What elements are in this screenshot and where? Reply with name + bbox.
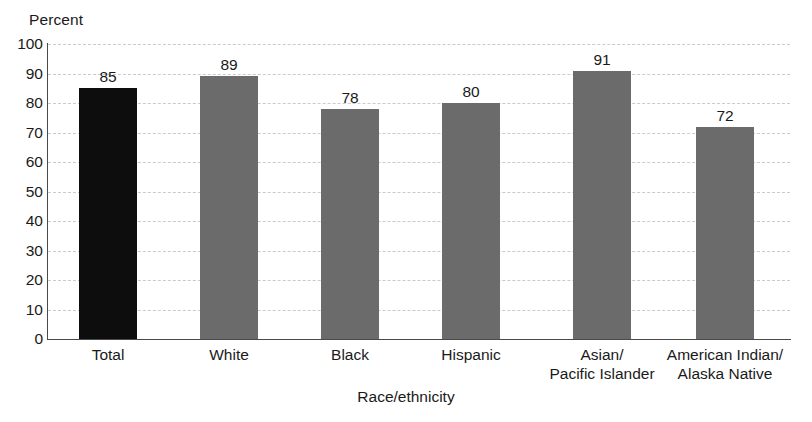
x-axis-category-label: Hispanic: [400, 345, 542, 364]
bar-group[interactable]: 89White: [200, 76, 258, 339]
bar[interactable]: [573, 71, 631, 339]
bar-value-label: 80: [420, 83, 522, 100]
x-axis-title: Race/ethnicity: [0, 388, 812, 406]
bar-group[interactable]: 80Hispanic: [442, 103, 500, 339]
bar-group[interactable]: 85Total: [79, 88, 137, 339]
bar[interactable]: [696, 127, 754, 339]
bar-value-label: 72: [674, 107, 776, 124]
bar-chart: Percent 1009080706050403020100 85Total89…: [0, 0, 812, 422]
bar-value-label: 85: [57, 68, 159, 85]
bar-value-label: 89: [178, 56, 280, 73]
x-axis-category-label: Asian/ Pacific Islander: [531, 345, 673, 383]
x-axis-category-label: American Indian/ Alaska Native: [654, 345, 796, 383]
bar[interactable]: [442, 103, 500, 339]
bar-value-label: 91: [551, 51, 653, 68]
bars-layer: 85Total89White78Black80Hispanic91Asian/ …: [0, 0, 812, 422]
bar[interactable]: [79, 88, 137, 339]
bar-group[interactable]: 91Asian/ Pacific Islander: [573, 71, 631, 339]
bar-group[interactable]: 72American Indian/ Alaska Native: [696, 127, 754, 339]
bar[interactable]: [200, 76, 258, 339]
bar-group[interactable]: 78Black: [321, 109, 379, 339]
bar[interactable]: [321, 109, 379, 339]
bar-value-label: 78: [299, 89, 401, 106]
